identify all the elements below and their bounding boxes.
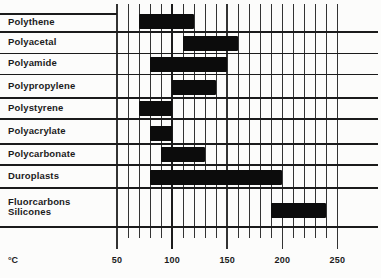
range-bar: [150, 57, 227, 72]
row-separator-line: [0, 13, 117, 15]
row-label: Polypropylene: [8, 81, 75, 92]
range-bar: [172, 80, 216, 95]
row-separator-line: [0, 143, 378, 145]
row-label-line: Polyacetal: [8, 37, 57, 48]
range-bar: [183, 36, 238, 51]
row-separator-line: [0, 97, 378, 99]
row-label-line: Polycarbonate: [8, 149, 75, 160]
range-bar: [139, 14, 194, 29]
axis-tick-label: 50: [112, 255, 122, 265]
row-separator-line: [0, 187, 378, 189]
row-label-line: Polystyrene: [8, 103, 64, 114]
row-label: Polycarbonate: [8, 149, 75, 160]
range-bar: [139, 101, 172, 116]
temperature-range-chart: °C PolythenePolyacetalPolyamidePolypropy…: [0, 0, 381, 278]
row-separator-line: [0, 118, 378, 120]
axis-tick-label: 100: [164, 255, 180, 265]
row-separator-line: [0, 31, 378, 33]
row-label: Polyacrylate: [8, 126, 66, 137]
row-label: Polystyrene: [8, 103, 64, 114]
gridline-major: [116, 4, 118, 249]
gridline-minor: [260, 4, 261, 238]
range-bar: [161, 147, 205, 162]
gridline-minor: [139, 4, 140, 238]
row-label-line: Polyamide: [8, 58, 57, 69]
gridline-minor: [249, 4, 250, 238]
row-label: FluorcarbonsSilicones: [8, 197, 71, 218]
row-label-line: Silicones: [8, 207, 71, 218]
row-label: Polythene: [8, 17, 55, 28]
axis-tick-label: 250: [330, 255, 346, 265]
row-label-line: Duroplasts: [8, 171, 59, 182]
range-bar: [271, 203, 326, 218]
gridline-minor: [161, 4, 162, 238]
axis-unit-label: °C: [8, 255, 18, 265]
gridline-major: [337, 4, 339, 249]
row-separator-line: [0, 74, 378, 76]
axis-tick-label: 200: [274, 255, 290, 265]
gridline-minor: [128, 4, 129, 238]
range-bar: [150, 170, 282, 185]
axis-tick-label: 150: [219, 255, 235, 265]
row-separator-line: [0, 226, 378, 228]
gridline-minor: [326, 4, 327, 238]
row-label-line: Polypropylene: [8, 81, 75, 92]
range-bar: [150, 126, 172, 141]
row-separator-line: [0, 53, 378, 55]
gridline-minor: [150, 4, 151, 238]
row-label-line: Polyacrylate: [8, 126, 66, 137]
row-separator-line: [0, 164, 378, 166]
row-label: Polyamide: [8, 58, 57, 69]
row-label: Polyacetal: [8, 37, 57, 48]
row-label-line: Polythene: [8, 17, 55, 28]
row-label: Duroplasts: [8, 171, 59, 182]
